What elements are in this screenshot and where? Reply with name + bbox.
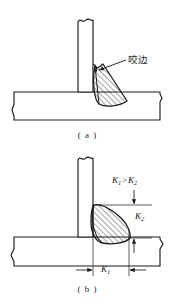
welding-defect-figure: 咬边 K1>K2 K2 K1 ( a ) ( b ) — [0, 0, 175, 308]
panel-a — [12, 19, 162, 120]
undercut-label: 咬边 — [128, 52, 148, 66]
weld-bead-a — [94, 64, 127, 106]
k2-subscript: 2 — [141, 215, 144, 222]
weld-bead-b — [91, 205, 130, 244]
k2-relation-subscript: 2 — [134, 179, 137, 186]
k1-subscript: 1 — [107, 268, 110, 275]
k1-relation-subscript: 1 — [118, 179, 121, 186]
k2-dimension-label: K2 — [135, 211, 144, 221]
vertical-plate-a — [78, 19, 93, 92]
k-relation-label: K1>K2 — [112, 175, 137, 185]
base-plate-a — [12, 92, 162, 120]
k1-dimension-label: K1 — [101, 264, 110, 274]
figure-svg — [0, 0, 175, 308]
caption-panel-b: ( b ) — [0, 284, 175, 294]
caption-panel-a: ( a ) — [0, 130, 175, 140]
base-plate-b — [11, 237, 163, 266]
